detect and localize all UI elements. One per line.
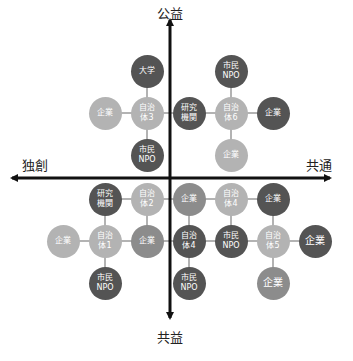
stakeholder-node: 市民 NPO [89,267,122,300]
stakeholder-node: 自治 体2 [131,183,164,216]
stakeholder-node: 企業 [257,97,290,130]
node-label: 研究 機関 [97,189,113,209]
node-label: 企業 [55,236,71,246]
stakeholder-node: 企業 [215,139,248,172]
stakeholder-node: 市民 NPO [215,225,248,258]
node-label: 企業 [305,236,325,246]
node-label: 企業 [265,108,281,118]
node-label: 自治 体6 [223,103,239,123]
stakeholder-node: 企業 [47,225,80,258]
stakeholder-node: 大学 [131,55,164,88]
stakeholder-node: 企業 [299,225,332,258]
node-label: 自治 体1 [97,231,113,251]
node-label: 大学 [139,66,155,76]
node-label: 市民 NPO [222,61,239,81]
stakeholder-node: 企業 [89,97,122,130]
node-label: 自治 体3 [139,103,155,123]
axis-label-bottom-mutual-benefit: 共益 [157,327,183,346]
node-label: 市民 NPO [96,273,113,293]
diagram-canvas [0,0,353,361]
node-label: 企業 [265,194,281,204]
node-label: 企業 [181,194,197,204]
node-label: 企業 [139,236,155,246]
stakeholder-node: 市民 NPO [215,55,248,88]
stakeholder-node: 企業 [131,225,164,258]
node-label: 市民 NPO [222,231,239,251]
stakeholder-node: 自治 体3 [131,97,164,130]
stakeholder-node: 研究 機関 [89,183,122,216]
node-label: 自治 体2 [139,189,155,209]
axis-label-left-originality: 独創 [22,155,48,174]
stakeholder-node: 企業 [173,183,206,216]
stakeholder-node: 自治 体4 [173,225,206,258]
node-label: 自治 体4 [181,231,197,251]
stakeholder-node: 自治 体5 [257,225,290,258]
axis-label-top-public-benefit: 公益 [157,3,183,22]
stakeholder-node: 自治 体1 [89,225,122,258]
axis-label-right-commonality: 共通 [306,155,332,174]
node-label: 市民 NPO [138,145,155,165]
stakeholder-node: 市民 NPO [131,139,164,172]
node-label: 研究 機関 [181,103,197,123]
node-label: 企業 [223,150,239,160]
stakeholder-node: 自治 体6 [215,97,248,130]
stakeholder-node: 企業 [257,267,290,300]
node-label: 企業 [97,108,113,118]
stakeholder-node: 研究 機関 [173,97,206,130]
node-label: 自治 体5 [265,231,281,251]
stakeholder-node: 市民 NPO [173,267,206,300]
stakeholder-node: 自治 体4 [215,183,248,216]
node-label: 市民 NPO [180,273,197,293]
node-label: 自治 体4 [223,189,239,209]
stakeholder-node: 企業 [257,183,290,216]
node-label: 企業 [263,278,283,288]
